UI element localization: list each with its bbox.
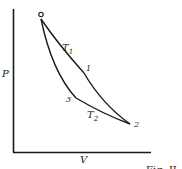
isotherm-t2-label: T2: [87, 109, 99, 123]
curve-isotherm-t2: [76, 98, 130, 124]
isotherm-t1-subscript: 1: [69, 48, 73, 56]
pv-diagram: P V 1 2 3 T1 T2 Fig. II: [0, 0, 182, 169]
point-2-label: 2: [133, 120, 139, 129]
y-axis-label: P: [1, 68, 9, 79]
point-0-marker: [39, 12, 43, 16]
figure-caption-fragment: Fig. II: [146, 164, 177, 169]
point-3-label: 3: [66, 95, 71, 104]
x-axis-label: V: [80, 154, 89, 165]
isotherm-t2-subscript: 2: [93, 115, 99, 123]
point-1-label: 1: [86, 64, 91, 73]
